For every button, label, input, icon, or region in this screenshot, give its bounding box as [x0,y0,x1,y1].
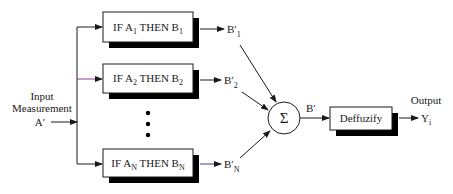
sum-input-arrow-n [240,131,270,158]
output-symbol: Yi [421,112,432,127]
rule-output-label-2: B′2 [224,74,238,90]
output-label: Output [411,94,442,106]
rule-box-2: IF A2 THEN B2 [103,64,199,99]
summation-symbol: Σ [280,110,289,126]
ellipsis-dot [146,122,150,126]
rule-box-n: IF AN THEN BN [103,149,199,183]
ellipsis-dot [146,111,150,115]
defuzzify-box: Deffuzify [330,107,398,136]
defuzzify-label: Deffuzify [340,112,383,124]
summation-node: Σ [268,102,300,134]
sum-input-arrow-2 [242,92,268,110]
aggregate-label: B′ [306,102,316,114]
rule-box-1: IF A1 THEN B1 [103,12,199,48]
fuzzy-inference-diagram: Input Measurement A′ IF A1 THEN B1 IF A2… [0,0,453,194]
ellipsis-dots [146,111,150,137]
rule-output-label-n: B′N [224,158,240,174]
input-label-line1: Input [30,90,53,102]
input-symbol: A′ [35,116,45,128]
input-label-line2: Measurement [12,102,72,114]
ellipsis-dot [146,133,150,137]
rule-output-label-1: B′1 [227,23,241,39]
sum-input-arrow-1 [240,45,276,102]
